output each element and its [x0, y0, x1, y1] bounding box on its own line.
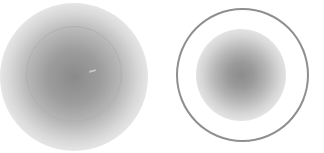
- right-gray-blob: [196, 29, 286, 121]
- left-thin-ring: [26, 26, 122, 122]
- image-canvas: [0, 0, 324, 153]
